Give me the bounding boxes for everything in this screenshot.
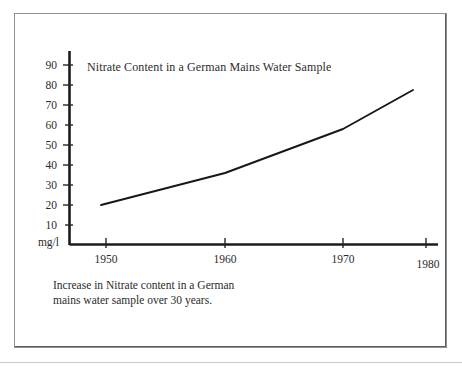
chart-title: Nitrate Content in a German Mains Water … [87,60,331,75]
caption-line-2: mains water sample over 30 years. [53,293,234,308]
y-tick-label-20: 20 [46,199,58,211]
y-tick-label-40: 40 [46,159,58,171]
y-axis-unit-label: mg/l [38,236,59,249]
y-tick-label-30: 30 [46,179,58,191]
figure-frame: 90 80 70 60 50 40 30 20 10 mg/l 1950 [14,13,447,348]
x-axis-ticks [106,238,426,248]
y-axis-tick-labels: 90 80 70 60 50 40 30 20 10 mg/l [38,59,59,249]
x-tick-label-1970: 1970 [332,253,355,265]
y-tick-label-50: 50 [46,139,58,151]
y-axis-ticks [63,65,73,225]
page-divider-rule [0,362,462,363]
x-tick-label-1950: 1950 [95,253,118,265]
data-series-nitrate-content [101,90,413,205]
x-axis-tick-labels: 1950 1960 1970 1980 [95,253,440,270]
y-tick-label-90: 90 [46,59,58,71]
y-tick-label-10: 10 [46,219,58,231]
caption-line-1: Increase in Nitrate content in a German [53,278,234,293]
y-tick-label-80: 80 [46,79,58,91]
y-tick-label-60: 60 [46,119,58,131]
figure-caption: Increase in Nitrate content in a German … [53,278,234,308]
x-tick-label-1960: 1960 [214,253,237,265]
x-tick-label-1980: 1980 [417,258,440,270]
figure-root: 90 80 70 60 50 40 30 20 10 mg/l 1950 [0,0,462,369]
y-tick-label-70: 70 [46,99,58,111]
